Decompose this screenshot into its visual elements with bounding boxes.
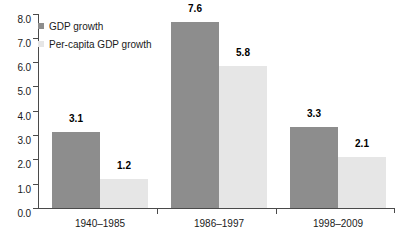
x-axis-separator-tick [157,209,158,214]
legend-swatch-icon [38,23,44,29]
y-axis-tick-label: 2.0 [1,159,31,170]
x-axis-category-label: 1940–1985 [40,218,160,229]
bar-value-label: 1.2 [100,160,148,171]
y-axis-tick-label: 6.0 [1,62,31,73]
bar-value-label: 3.3 [290,108,338,119]
y-axis-tick-label: 7.0 [1,38,31,49]
x-axis-line [38,208,395,209]
bar-gdp-growth-1940-1985[interactable] [52,132,100,208]
y-axis-tick-label: 3.0 [1,135,31,146]
bar-gdp-growth-1998-2009[interactable] [290,127,338,208]
chart-legend: GDP growth Per-capita GDP growth [38,17,152,53]
legend-item-label: GDP growth [49,21,103,32]
bar-value-label: 3.1 [52,113,100,124]
bar-gdp-growth-1986-1997[interactable] [171,22,219,208]
x-axis-category-label: 1998–2009 [278,218,398,229]
x-axis-category-label: 1986–1997 [159,218,279,229]
bar-per-capita-gdp-growth-1940-1985[interactable] [100,179,148,208]
bar-per-capita-gdp-growth-1986-1997[interactable] [219,66,267,208]
x-axis-end-tick [394,208,395,213]
y-axis-tick-label: 4.0 [1,111,31,122]
bar-chart: 8.0 7.0 6.0 5.0 4.0 3.0 2.0 1.0 [0,0,403,237]
bar-value-label: 5.8 [219,47,267,58]
bar-per-capita-gdp-growth-1998-2009[interactable] [338,157,386,208]
legend-item-per-capita-gdp-growth[interactable]: Per-capita GDP growth [38,35,152,53]
y-axis-tick-label: 5.0 [1,86,31,97]
y-axis-tick-label: 1.0 [1,184,31,195]
legend-swatch-icon [38,41,44,47]
bar-value-label: 7.6 [171,3,219,14]
x-axis-separator-tick [276,209,277,214]
legend-item-label: Per-capita GDP growth [49,39,152,50]
legend-item-gdp-growth[interactable]: GDP growth [38,17,152,35]
bar-value-label: 2.1 [338,138,386,149]
y-axis-tick-label: 0.0 [1,208,31,219]
y-axis-tick-label: 8.0 [1,14,31,25]
